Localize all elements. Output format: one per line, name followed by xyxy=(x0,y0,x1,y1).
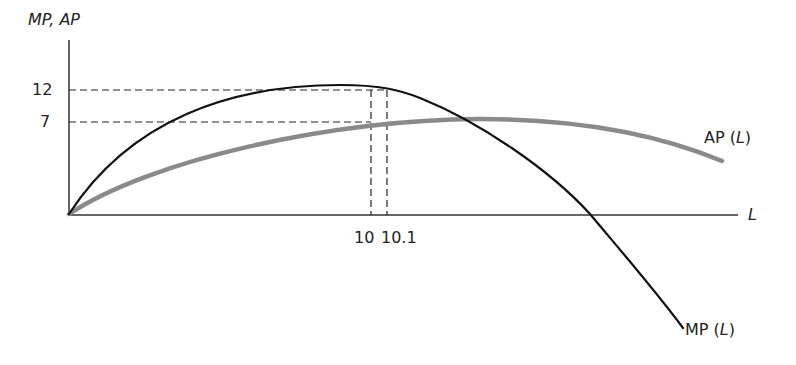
chart-canvas xyxy=(0,0,796,365)
mp-label-var: L xyxy=(720,320,729,339)
mp-curve-label: MP (L) xyxy=(685,320,735,339)
ap-label-var: L xyxy=(736,128,745,147)
mp-label-suffix: ) xyxy=(729,320,735,339)
x-axis-label: L xyxy=(748,205,757,224)
ap-curve-label: AP (L) xyxy=(704,128,751,147)
mp-label-prefix: MP ( xyxy=(685,320,720,339)
ap-curve xyxy=(69,119,722,214)
x-tick-10: 10 xyxy=(354,228,374,247)
y-axis-label: MP, AP xyxy=(28,10,80,29)
y-tick-7: 7 xyxy=(40,112,50,131)
y-tick-12: 12 xyxy=(32,80,52,99)
ap-label-suffix: ) xyxy=(745,128,751,147)
x-tick-10-1: 10.1 xyxy=(381,228,417,247)
ap-label-prefix: AP ( xyxy=(704,128,736,147)
